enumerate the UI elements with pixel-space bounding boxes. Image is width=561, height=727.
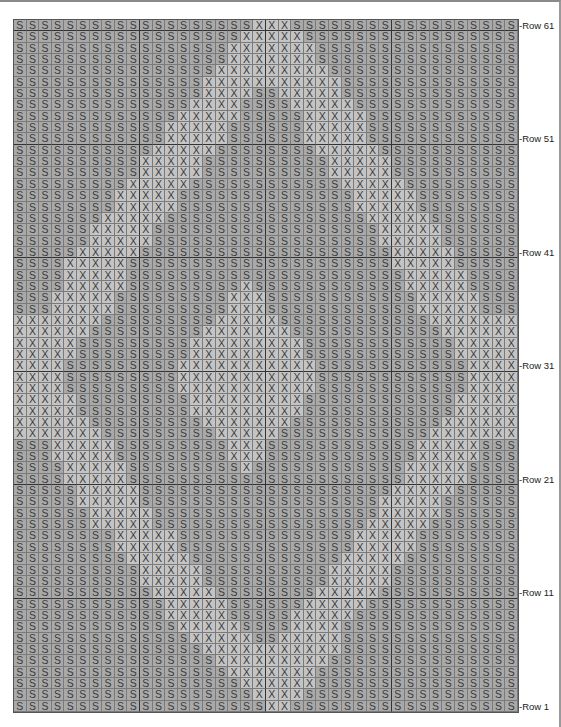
chart-cell: X bbox=[430, 247, 443, 258]
chart-cell: S bbox=[405, 338, 418, 349]
chart-cell: S bbox=[304, 304, 317, 315]
chart-cell: S bbox=[304, 530, 317, 541]
chart-cell: S bbox=[342, 202, 355, 213]
chart-cell: X bbox=[392, 519, 405, 530]
chart-cell: S bbox=[178, 190, 191, 201]
chart-cell: S bbox=[253, 133, 266, 144]
chart-cell: S bbox=[442, 519, 455, 530]
chart-cell: X bbox=[291, 77, 304, 88]
chart-cell: S bbox=[39, 496, 52, 507]
chart-cell: S bbox=[64, 565, 77, 576]
chart-cell: S bbox=[127, 474, 140, 485]
chart-cell: X bbox=[14, 372, 27, 383]
chart-cell: X bbox=[64, 281, 77, 292]
chart-cell: S bbox=[342, 349, 355, 360]
chart-cell: S bbox=[203, 236, 216, 247]
chart-cell: S bbox=[52, 54, 65, 65]
chart-cell: X bbox=[241, 43, 254, 54]
chart-cell: X bbox=[279, 417, 292, 428]
chart-cell: S bbox=[342, 258, 355, 269]
chart-cell: S bbox=[253, 213, 266, 224]
chart-cell: S bbox=[127, 372, 140, 383]
chart-cell: X bbox=[253, 644, 266, 655]
chart-cell: S bbox=[505, 281, 518, 292]
chart-cell: S bbox=[253, 610, 266, 621]
chart-cell: S bbox=[266, 156, 279, 167]
chart-cell: S bbox=[304, 167, 317, 178]
chart-cell: X bbox=[77, 247, 90, 258]
chart-cell: S bbox=[417, 610, 430, 621]
chart-cell: S bbox=[178, 326, 191, 337]
chart-cell: S bbox=[266, 474, 279, 485]
chart-cell: S bbox=[417, 202, 430, 213]
chart-cell: S bbox=[505, 565, 518, 576]
row-label: -Row 1 bbox=[519, 700, 549, 711]
chart-cell: S bbox=[90, 360, 103, 371]
chart-cell: X bbox=[241, 428, 254, 439]
chart-cell: S bbox=[153, 111, 166, 122]
chart-cell: S bbox=[430, 31, 443, 42]
chart-cell: X bbox=[442, 270, 455, 281]
chart-cell: S bbox=[153, 20, 166, 31]
chart-cell: S bbox=[228, 496, 241, 507]
chart-cell: X bbox=[505, 383, 518, 394]
chart-cell: S bbox=[102, 394, 115, 405]
chart-cell: S bbox=[140, 587, 153, 598]
chart-cell: S bbox=[203, 440, 216, 451]
chart-cell: S bbox=[216, 156, 229, 167]
chart-cell: S bbox=[64, 236, 77, 247]
chart-cell: S bbox=[127, 54, 140, 65]
chart-cell: X bbox=[90, 451, 103, 462]
chart-cell: S bbox=[115, 406, 128, 417]
chart-cell: S bbox=[216, 689, 229, 700]
chart-cell: S bbox=[165, 508, 178, 519]
chart-cell: X bbox=[379, 519, 392, 530]
chart-cell: X bbox=[27, 372, 40, 383]
chart-cell: X bbox=[241, 633, 254, 644]
chart-cell: S bbox=[480, 508, 493, 519]
chart-cell: S bbox=[228, 270, 241, 281]
chart-cell: X bbox=[39, 394, 52, 405]
chart-cell: X bbox=[90, 462, 103, 473]
chart-cell: S bbox=[468, 77, 481, 88]
chart-cell: S bbox=[379, 133, 392, 144]
chart-cell: S bbox=[430, 565, 443, 576]
chart-cell: X bbox=[115, 270, 128, 281]
chart-cell: S bbox=[203, 270, 216, 281]
chart-cell: S bbox=[52, 190, 65, 201]
chart-cell: X bbox=[316, 610, 329, 621]
chart-cell: X bbox=[304, 610, 317, 621]
chart-cell: X bbox=[291, 372, 304, 383]
chart-cell: S bbox=[329, 65, 342, 76]
chart-cell: S bbox=[153, 417, 166, 428]
chart-cell: X bbox=[367, 190, 380, 201]
chart-cell: S bbox=[442, 508, 455, 519]
chart-cell: X bbox=[266, 77, 279, 88]
chart-cell: X bbox=[241, 326, 254, 337]
chart-cell: S bbox=[480, 644, 493, 655]
chart-cell: X bbox=[442, 326, 455, 337]
chart-cell: S bbox=[367, 599, 380, 610]
chart-cell: S bbox=[140, 281, 153, 292]
chart-cell: X bbox=[304, 621, 317, 632]
chart-cell: S bbox=[178, 202, 191, 213]
chart-cell: S bbox=[405, 145, 418, 156]
chart-cell: S bbox=[354, 77, 367, 88]
chart-cell: S bbox=[77, 530, 90, 541]
chart-cell: S bbox=[367, 133, 380, 144]
chart-cell: S bbox=[127, 258, 140, 269]
chart-cell: S bbox=[493, 99, 506, 110]
chart-cell: S bbox=[405, 31, 418, 42]
chart-cell: S bbox=[77, 667, 90, 678]
chart-cell: X bbox=[253, 20, 266, 31]
chart-cell: S bbox=[241, 621, 254, 632]
chart-cell: S bbox=[27, 247, 40, 258]
chart-cell: S bbox=[430, 530, 443, 541]
chart-cell: X bbox=[304, 111, 317, 122]
chart-cell: S bbox=[367, 224, 380, 235]
chart-cell: S bbox=[316, 428, 329, 439]
chart-cell: X bbox=[77, 304, 90, 315]
chart-cell: S bbox=[291, 156, 304, 167]
chart-cell: S bbox=[165, 496, 178, 507]
chart-cell: S bbox=[392, 326, 405, 337]
